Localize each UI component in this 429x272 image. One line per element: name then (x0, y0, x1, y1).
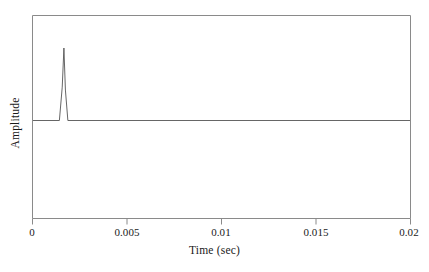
x-tick-label-0.02: 0.02 (399, 226, 419, 238)
x-axis-title: Time (sec) (0, 244, 429, 256)
y-axis-title: Amplitude (3, 85, 27, 165)
x-tick-label-0.005: 0.005 (114, 226, 139, 238)
x-tick-label-0.015: 0.015 (303, 226, 328, 238)
x-tick-label-0: 0 (29, 226, 35, 238)
signal-trace-impulse (33, 48, 410, 121)
y-axis-title-text: Amplitude (9, 97, 21, 149)
plot-frame-border (33, 16, 411, 219)
x-tick-label-0.01: 0.01 (211, 226, 231, 238)
figure-panel: 0 0.005 0.01 0.015 0.02 Time (sec) Ampli… (0, 0, 429, 272)
x-axis-ticks (33, 219, 411, 225)
